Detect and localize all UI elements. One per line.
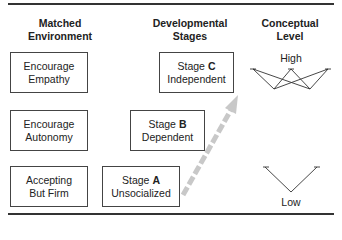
stage-title: Stage C (178, 60, 216, 73)
stage-name: Dependent (142, 131, 193, 144)
stage-name: Unsocialized (111, 187, 171, 200)
level-high-label: High (276, 52, 306, 64)
stage-prefix: Stage (178, 60, 208, 72)
stage-name: Independent (167, 73, 225, 86)
stage-title: Stage A (122, 174, 160, 187)
stage-box-a: Stage A Unsocialized (102, 166, 180, 207)
level-low-label: Low (276, 196, 306, 208)
stage-title: Stage B (149, 118, 187, 131)
stage-prefix: Stage (149, 118, 179, 130)
stage-prefix: Stage (122, 174, 152, 186)
stage-box-b: Stage B Dependent (130, 110, 205, 151)
stage-letter: C (208, 60, 216, 72)
stage-box-c: Stage C Independent (159, 52, 234, 93)
stage-letter: A (152, 174, 160, 186)
stage-letter: B (179, 118, 187, 130)
